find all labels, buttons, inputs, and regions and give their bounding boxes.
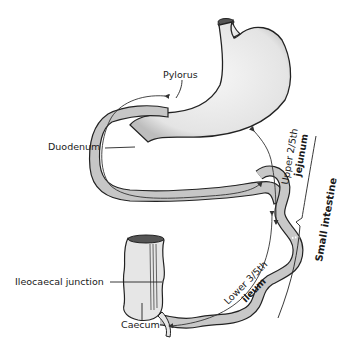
ileocaecal-junction-label: Ileocaecal junction (15, 276, 104, 287)
digestive-tract-diagram: Pylorus Duodenum Ileocaecal junction Cae… (0, 0, 345, 347)
caecum-label: Caecum (121, 319, 160, 330)
stomach (130, 19, 291, 143)
small-intestine-label: Small intestine (313, 177, 339, 263)
duodenum-label: Duodenum (48, 141, 100, 152)
pylorus-label: Pylorus (163, 69, 198, 80)
colon-opening (128, 235, 164, 243)
